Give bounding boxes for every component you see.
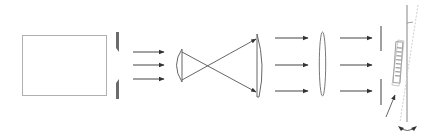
arrows-group-3	[340, 38, 372, 91]
arrows-group-2	[275, 38, 308, 91]
lens-large	[257, 34, 262, 97]
arrows-group-1	[133, 52, 164, 79]
incidence-arrow	[386, 95, 395, 117]
lens-thin	[319, 32, 325, 96]
optical-diagram	[0, 0, 441, 138]
light-source-box	[23, 36, 107, 96]
grating	[392, 40, 404, 86]
tilt-angle-mark	[407, 22, 413, 23]
rotation-indicator	[398, 126, 417, 131]
crossing-rays	[182, 39, 256, 92]
lens-small	[177, 49, 183, 82]
diagram-canvas	[0, 0, 441, 138]
entrance-slit	[116, 32, 119, 99]
